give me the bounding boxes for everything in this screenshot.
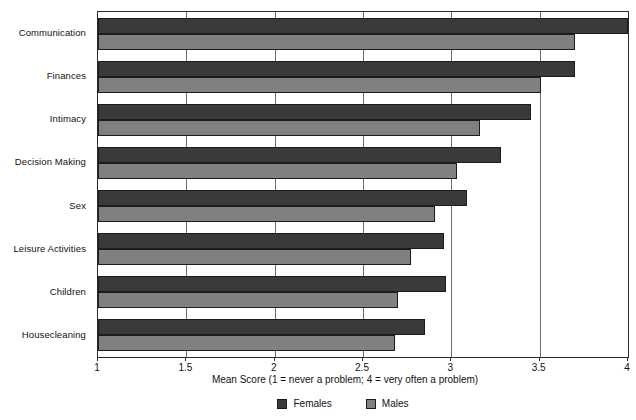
x-axis-tick-mark (362, 357, 363, 361)
bar-group (98, 185, 628, 228)
bar-females-leisure-activities (98, 233, 444, 249)
y-axis-tick-label: Leisure Activities (0, 227, 92, 270)
bar-males-housecleaning (98, 335, 395, 351)
bar-chart: CommunicationFinancesIntimacyDecision Ma… (0, 0, 636, 420)
bar-males-children (98, 292, 398, 308)
legend-item-males[interactable]: Males (366, 398, 409, 409)
bar-males-communication (98, 34, 575, 50)
legend-item-females[interactable]: Females (277, 398, 331, 409)
bar-females-intimacy (98, 104, 531, 120)
x-axis-tick-mark (97, 357, 98, 361)
x-axis-tick-mark (274, 357, 275, 361)
bar-males-finances (98, 77, 541, 93)
x-axis-tick-mark (185, 357, 186, 361)
bar-females-sex (98, 190, 467, 206)
chart-legend: FemalesMales (0, 398, 636, 409)
y-axis-tick-label: Communication (0, 11, 92, 54)
y-axis-tick-label: Finances (0, 54, 92, 97)
plot-inner (98, 12, 628, 357)
y-axis-tick-label: Housecleaning (0, 313, 92, 356)
bar-group (98, 228, 628, 271)
y-axis-tick-label: Children (0, 270, 92, 313)
y-axis-category-labels: CommunicationFinancesIntimacyDecision Ma… (0, 11, 92, 356)
bar-group (98, 12, 628, 55)
plot-area (97, 11, 629, 358)
bar-group (98, 271, 628, 314)
y-axis-tick-label: Intimacy (0, 97, 92, 140)
x-axis-tick-mark (627, 357, 628, 361)
x-axis-tick-mark (450, 357, 451, 361)
bar-group (98, 314, 628, 357)
bar-females-finances (98, 61, 575, 77)
legend-swatch-icon (366, 399, 376, 409)
bar-females-decision-making (98, 147, 501, 163)
bar-females-housecleaning (98, 319, 425, 335)
y-axis-tick-label: Decision Making (0, 140, 92, 183)
legend-label: Males (382, 398, 409, 409)
bar-males-intimacy (98, 120, 480, 136)
x-axis-tick-label: 1.5 (178, 362, 192, 373)
x-axis-tick-label: 3 (448, 362, 454, 373)
x-axis-title: Mean Score (1 = never a problem; 4 = ver… (0, 374, 636, 385)
bar-males-decision-making (98, 163, 457, 179)
bar-males-leisure-activities (98, 249, 411, 265)
x-axis-tick-label: 1 (94, 362, 100, 373)
bar-group (98, 141, 628, 184)
x-axis-title-text: Mean Score (1 = never a problem; 4 = ver… (158, 374, 478, 385)
x-axis-tick-mark (539, 357, 540, 361)
x-axis-tick-label: 3.5 (532, 362, 546, 373)
x-axis-tick-label: 2.5 (355, 362, 369, 373)
x-axis-tick-label: 4 (624, 362, 630, 373)
bars-layer (98, 12, 628, 357)
bar-group (98, 98, 628, 141)
x-axis-tick-label: 2 (271, 362, 277, 373)
bar-females-children (98, 276, 446, 292)
bar-group (98, 55, 628, 98)
legend-label: Females (293, 398, 331, 409)
bar-males-sex (98, 206, 435, 222)
bar-females-communication (98, 18, 628, 34)
legend-swatch-icon (277, 399, 287, 409)
y-axis-tick-label: Sex (0, 184, 92, 227)
